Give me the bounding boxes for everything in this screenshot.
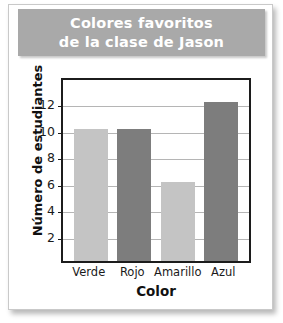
x-axis-tick-labels: VerdeRojoAmarilloAzul <box>61 265 251 279</box>
y-axis-tick-label: 2 <box>35 229 55 244</box>
y-axis-tick-labels: 24681012 <box>31 78 55 263</box>
y-axis-tick-label: 4 <box>35 203 55 218</box>
bar-slot <box>113 80 157 261</box>
chart-card: Colores favoritos de la clase de Jason N… <box>8 4 273 310</box>
x-axis-tick-label: Azul <box>202 265 246 279</box>
chart-title-line-1: Colores favoritos <box>70 14 213 33</box>
chart-title-line-2: de la clase de Jason <box>59 33 224 52</box>
bar-series <box>63 80 249 261</box>
x-axis-label: Color <box>61 283 251 299</box>
bar-azul <box>204 102 238 261</box>
bar-amarillo <box>161 182 195 261</box>
x-axis-tick-label: Amarillo <box>154 265 201 279</box>
x-axis-tick-label: Rojo <box>111 265 155 279</box>
y-axis-tick-label: 8 <box>35 150 55 165</box>
plot-area <box>61 78 251 263</box>
bar-slot <box>69 80 113 261</box>
y-axis-tick-label: 6 <box>35 176 55 191</box>
bar-slot <box>200 80 244 261</box>
y-axis-tick-label: 10 <box>35 123 55 138</box>
y-axis-tick-label: 12 <box>35 97 55 112</box>
chart-title-banner: Colores favoritos de la clase de Jason <box>18 9 265 56</box>
bar-rojo <box>117 129 151 261</box>
bar-slot <box>156 80 200 261</box>
x-axis-tick-label: Verde <box>67 265 111 279</box>
bar-chart: Número de estudiantes 24681012 VerdeRojo… <box>9 65 274 305</box>
bar-verde <box>74 129 108 261</box>
